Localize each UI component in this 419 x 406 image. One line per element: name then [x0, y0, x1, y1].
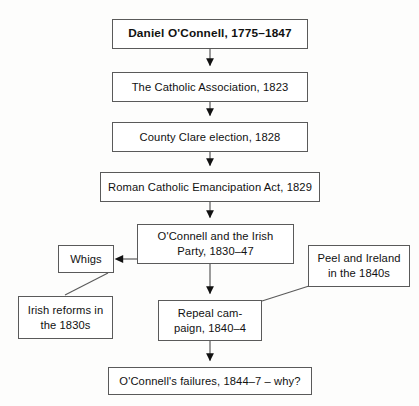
- node-roman-catholic-emancipation-act[interactable]: Roman Catholic Emancipation Act, 1829: [100, 172, 320, 202]
- node-label-line: Whigs: [70, 252, 102, 267]
- node-label-line: County Clare election, 1828: [140, 130, 281, 145]
- node-oconnell-failures[interactable]: O'Connell's failures, 1844–7 – why?: [108, 367, 312, 395]
- node-label-line: Daniel O'Connell, 1775–1847: [128, 26, 292, 42]
- node-label-line: in the 1840s: [317, 266, 400, 281]
- node-peel-and-ireland[interactable]: Peel and Ireland in the 1840s: [308, 245, 410, 287]
- node-catholic-association[interactable]: The Catholic Association, 1823: [112, 72, 308, 102]
- node-label-block: Irish reforms in the 1830s: [28, 303, 104, 333]
- node-oconnell-and-irish-party[interactable]: O'Connell and the Irish Party, 1830–47: [137, 224, 294, 264]
- node-county-clare-election[interactable]: County Clare election, 1828: [112, 122, 308, 152]
- node-label-line: Irish reforms in: [28, 303, 104, 318]
- flowchart-canvas: Daniel O'Connell, 1775–1847 The Catholic…: [0, 0, 419, 406]
- node-label-line: Repeal cam-: [174, 306, 246, 321]
- node-label-line: Party, 1830–47: [158, 244, 274, 259]
- node-repeal-campaign[interactable]: Repeal cam- paign, 1840–4: [158, 300, 262, 341]
- node-label-line: the 1830s: [28, 318, 104, 333]
- node-label-line: Peel and Ireland: [317, 251, 400, 266]
- node-whigs[interactable]: Whigs: [58, 245, 114, 273]
- node-label-line: The Catholic Association, 1823: [132, 80, 289, 95]
- node-daniel-oconnell[interactable]: Daniel O'Connell, 1775–1847: [112, 19, 308, 49]
- node-label-block: O'Connell and the Irish Party, 1830–47: [158, 229, 274, 259]
- node-irish-reforms[interactable]: Irish reforms in the 1830s: [18, 296, 113, 339]
- edge-whigs-to-reforms: [65, 273, 108, 295]
- edge-peel-to-repeal: [262, 286, 309, 301]
- node-label-line: Roman Catholic Emancipation Act, 1829: [108, 180, 312, 195]
- node-label-block: Repeal cam- paign, 1840–4: [174, 306, 246, 336]
- connector-layer: [0, 0, 419, 406]
- node-label-line: paign, 1840–4: [174, 321, 246, 336]
- node-label-block: Peel and Ireland in the 1840s: [317, 251, 400, 281]
- node-label-line: O'Connell's failures, 1844–7 – why?: [119, 374, 300, 389]
- node-label-line: O'Connell and the Irish: [158, 229, 274, 244]
